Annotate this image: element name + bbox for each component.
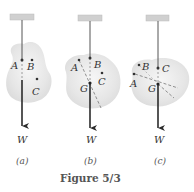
figure-caption: Figure 5/3	[60, 172, 121, 184]
label-G: G	[80, 83, 88, 94]
label-A: A	[129, 78, 137, 89]
point-C	[157, 67, 160, 70]
force-label-W: W	[86, 134, 97, 145]
label-B: B	[26, 61, 34, 72]
point-G	[88, 81, 91, 84]
label-G: G	[148, 83, 156, 94]
point-A	[78, 59, 81, 62]
point-B	[89, 57, 92, 60]
sublabel-b: (b)	[84, 156, 97, 166]
center-of-gravity-figure: A B C W (a) A B C G W (b)	[0, 0, 194, 192]
point-C	[101, 72, 104, 75]
label-B: B	[93, 59, 101, 70]
label-A: A	[70, 62, 78, 73]
point-C	[36, 78, 39, 81]
ceiling-support	[146, 15, 169, 21]
point-B	[138, 64, 141, 67]
label-B: B	[141, 61, 149, 72]
ceiling-support	[10, 14, 34, 20]
point-A	[133, 73, 136, 76]
sublabel-c: (c)	[154, 156, 167, 166]
label-C: C	[98, 76, 106, 87]
ceiling-support	[78, 15, 102, 21]
label-C: C	[32, 86, 40, 97]
irregular-body	[6, 42, 51, 103]
force-label-W: W	[17, 134, 28, 145]
point-G	[156, 82, 159, 85]
label-C: C	[162, 63, 170, 74]
point-A	[21, 59, 24, 62]
panel-a: A B C W (a)	[6, 14, 51, 166]
sublabel-a: (a)	[16, 156, 29, 166]
panel-c: B C A G W (c)	[129, 15, 189, 166]
force-label-W: W	[154, 134, 165, 145]
panel-b: A B C G W (b)	[65, 15, 120, 166]
label-A: A	[10, 60, 18, 71]
